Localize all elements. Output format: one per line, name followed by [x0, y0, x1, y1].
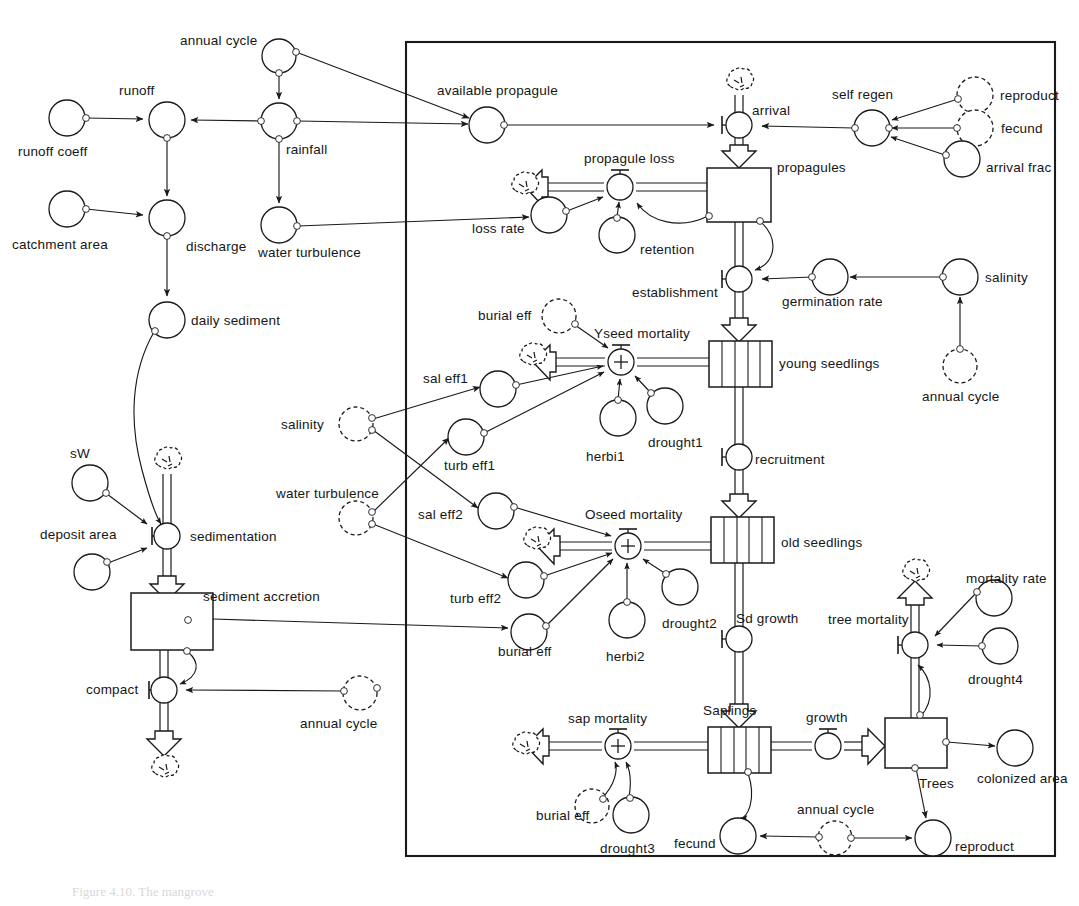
port-layer: [83, 49, 986, 842]
diagram-canvas: annual cycle runoff runoff coeff rainfal…: [0, 0, 1079, 906]
converter-water-turbulence-ghost: [339, 501, 373, 535]
converter-retention: [599, 217, 635, 253]
label-loss-rate: loss rate: [472, 222, 525, 236]
converter-discharge: [149, 200, 185, 236]
connector-catchment-discharge: [86, 209, 143, 215]
converter-annual-cycle-compact-ghost: [343, 676, 377, 710]
valve-establishment: [722, 266, 752, 292]
label-sap-mortality: sap mortality: [568, 712, 647, 726]
converter-turb-eff2: [508, 562, 544, 598]
converter-catchment-area: [49, 191, 85, 227]
converter-colonized-area: [997, 730, 1033, 766]
valve-yseed-mortality: [608, 345, 634, 375]
valve-recruitment: [722, 444, 752, 470]
connector-runoffcoeff-runoff: [86, 118, 143, 119]
label-propagules: propagules: [777, 161, 846, 175]
label-Saplings: Saplings: [703, 704, 756, 718]
converter-sW: [72, 465, 108, 501]
converter-drought3: [613, 797, 649, 833]
converter-salinity-ghost: [339, 407, 373, 441]
label-reproduct: reproduct: [1000, 89, 1059, 103]
label-annual-cycle-compact: annual cycle: [300, 717, 377, 731]
label-runoff: runoff: [119, 84, 154, 98]
connector-drought2-oseedmortality: [643, 559, 666, 574]
label-catchment-area: catchment area: [12, 238, 108, 252]
stock-layer: [131, 168, 947, 773]
converter-annual-cycle-bottom-ghost: [818, 821, 852, 855]
label-compact: compact: [86, 683, 138, 697]
label-sal-eff1: sal eff1: [423, 372, 468, 386]
connector-sedimentaccretion-burialeff2: [213, 619, 508, 628]
connector-burialeff2-oseedmortality: [546, 559, 613, 626]
label-sal-eff2: sal eff2: [418, 508, 463, 522]
connector-arrivalfrac-selfregen: [891, 137, 945, 155]
label-turb-eff1: turb eff1: [444, 459, 495, 473]
label-Sd-growth: Sd growth: [736, 612, 799, 626]
label-turb-eff2: turb eff2: [450, 592, 501, 606]
stock-propagules: [707, 168, 771, 222]
label-self-regen: self regen: [832, 88, 893, 102]
valve-propagule-loss: [607, 170, 633, 200]
valve-oseed-mortality: [615, 529, 641, 559]
label-establishment: establishment: [632, 286, 718, 300]
system-dynamics-diagram: [0, 0, 1079, 906]
valve-sd-growth: [722, 626, 752, 652]
connector-selfregen-arrival: [762, 126, 854, 128]
label-discharge: discharge: [186, 240, 246, 254]
converter-self-regen: [854, 110, 890, 146]
label-old-seedlings: old seedlings: [781, 536, 862, 550]
connector-drought3-sapmortality: [626, 762, 630, 797]
converter-runoff: [149, 102, 185, 138]
label-daily-sediment: daily sediment: [191, 314, 280, 328]
connector-dailysediment-sedimentation: [134, 332, 161, 524]
label-salinity-right: salinity: [985, 271, 1028, 285]
connector-germinationrate-establishment: [762, 277, 812, 279]
figure-caption: Figure 4.10. The mangrove: [72, 884, 214, 900]
label-propagule-loss: propagule loss: [584, 152, 675, 166]
label-fecund-bottom: fecund: [674, 837, 716, 851]
converter-germination-rate: [812, 259, 848, 295]
label-retention: retention: [640, 243, 694, 257]
converter-water-turbulence: [261, 207, 297, 243]
cloud-icon: [513, 732, 540, 754]
connector-salinityghost-saleff1: [373, 387, 480, 419]
label-tree-mortality: tree mortality: [828, 613, 909, 627]
converter-rainfall: [261, 103, 297, 139]
stock-saplings: [708, 727, 771, 773]
label-drought1: drought1: [648, 436, 703, 450]
connector-sW-sedimentation: [107, 494, 147, 524]
cloud-icon: [524, 527, 551, 549]
connector-trees-colonizedarea: [947, 742, 995, 746]
label-Trees: Trees: [919, 777, 954, 791]
converter-annual-cycle-salinity-ghost: [943, 349, 977, 383]
label-young-seedlings: young seedlings: [779, 357, 880, 371]
valve-sedimentation: [152, 523, 180, 549]
converter-turb-eff1: [448, 419, 484, 455]
connector-annualcycle-fecundbottom: [760, 836, 818, 837]
label-drought2: drought2: [662, 617, 717, 631]
label-herbi2: herbi2: [606, 650, 645, 664]
label-drought4: drought4: [968, 673, 1023, 687]
connector-depositarea-sedimentation: [108, 548, 147, 563]
label-recruitment: recruitment: [755, 453, 825, 467]
label-burial-eff-2: burial eff: [498, 645, 552, 659]
cloud-icon: [155, 447, 182, 469]
connector-reproduct-selfregen: [892, 99, 958, 120]
cloud-icon: [903, 559, 930, 581]
label-annual-cycle-salinity: annual cycle: [922, 390, 999, 404]
connector-trees-treemortality: [918, 665, 930, 716]
connector-sedimentaccretion-compact: [180, 652, 196, 684]
cloud-icon: [512, 172, 539, 194]
label-burial-eff-1: burial eff: [478, 309, 532, 323]
converter-drought4: [982, 628, 1018, 664]
label-herbi1: herbi1: [586, 450, 625, 464]
label-sedimentation: sedimentation: [190, 530, 277, 544]
connector-layer: [86, 52, 995, 838]
label-growth: growth: [806, 711, 848, 725]
label-available-propagule: available propagule: [437, 84, 558, 98]
converter-annual-cycle-top: [262, 39, 296, 73]
label-water-turbulence: water turbulence: [258, 246, 361, 260]
converter-runoff-coeff: [49, 100, 85, 136]
label-sW: sW: [70, 447, 90, 461]
connector-lossrate-propaguleloss: [567, 197, 603, 211]
